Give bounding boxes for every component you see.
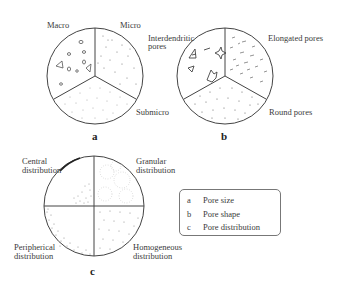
label-granular-line2: distribution (136, 165, 176, 175)
interdendritic-pores-icon (188, 47, 226, 82)
legend-item: b Pore shape (187, 208, 280, 222)
macro-pores-icon (56, 40, 91, 85)
legend-item: a Pore size (187, 194, 280, 208)
legend-key: a (187, 194, 203, 208)
label-macro: Macro (47, 20, 69, 30)
central-distribution-dots (74, 184, 92, 204)
label-submicro: Submicro (136, 107, 169, 117)
round-pores-dots (194, 87, 258, 119)
legend-box: a Pore size b Pore shape c Pore distribu… (179, 189, 281, 236)
label-micro: Micro (120, 20, 141, 30)
panel-a-label: a (92, 130, 98, 142)
label-elongated-pores: Elongated pores (268, 33, 323, 43)
legend-key: c (187, 221, 203, 235)
panel-c-label: c (90, 265, 95, 277)
label-peripherical-line2: distribution (14, 251, 54, 261)
label-central-line2: distribution (22, 165, 62, 175)
granular-distribution-dots (98, 161, 133, 203)
label-round-pores: Round pores (269, 107, 312, 117)
micro-pores-dots (97, 35, 136, 84)
label-interdendritic-line2: pores (148, 41, 166, 51)
panel-b: Interdendritic pores Elongated pores Rou… (148, 28, 323, 142)
panel-b-label: b (221, 130, 227, 142)
legend-item: c Pore distribution (187, 221, 280, 235)
legend-key: b (187, 208, 203, 222)
submicro-pores-dots (65, 88, 128, 120)
legend-text: Pore distribution (203, 221, 260, 235)
legend-text: Pore size (203, 194, 234, 208)
elongated-pores-dashes (230, 37, 267, 82)
legend-text: Pore shape (203, 208, 240, 222)
pore-classification-diagram: Macro Micro Submicro a (0, 0, 344, 283)
label-homogeneous-line2: distribution (133, 251, 173, 261)
panel-c: Central distribution Granular distributi… (14, 156, 182, 277)
